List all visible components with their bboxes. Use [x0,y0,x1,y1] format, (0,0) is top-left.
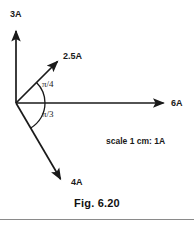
vector-diagram-svg [0,0,194,227]
vector-2.5A-label: 2.5A [63,52,82,61]
scale-note: scale 1 cm: 1A [106,137,165,146]
figure-container: 3A 2.5A 6A 4A π/4 π/3 scale 1 cm: 1A Fig… [0,0,194,227]
figure-caption: Fig. 6.20 [0,198,194,209]
bottom-divider [0,219,194,220]
angle-pi-over-4-label: π/4 [42,80,54,89]
vector-3A-label: 3A [10,10,22,19]
angle-pi-over-3-label: π/3 [42,110,54,119]
vector-6A-label: 6A [171,99,183,108]
vector-4A-label: 4A [71,178,83,187]
